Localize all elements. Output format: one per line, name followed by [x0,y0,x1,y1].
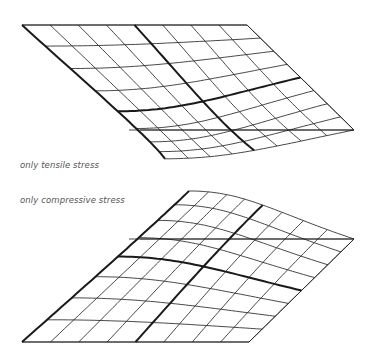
mesh-line-v [189,191,354,239]
compressive-surface-mesh [22,191,354,342]
tensile-stress-label: only tensile stress [20,160,99,170]
mesh-line-v [158,220,328,264]
mesh-line-u [22,25,165,159]
shell-diagram [0,0,367,356]
mesh-line-v [118,78,301,112]
base-edge [247,25,354,130]
mesh-line-u [136,205,263,342]
mesh-line-u [191,25,301,141]
compressive-stress-label: only compressive stress [20,195,125,205]
mesh-line-u [22,191,189,342]
base-edge [249,239,354,342]
mesh-line-u [79,195,227,342]
mesh-line-u [50,192,208,342]
mesh-line-v [118,257,302,291]
tensile-surface-mesh [22,25,354,159]
mesh-line-u [164,212,282,342]
